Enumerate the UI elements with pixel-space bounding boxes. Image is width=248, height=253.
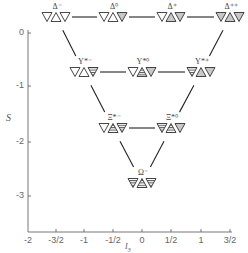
connection-line (179, 85, 193, 112)
x-tick-label: -2 (24, 236, 32, 245)
quark-triangle-left (157, 13, 167, 22)
quark-triangle-middle (108, 13, 118, 22)
particle-label-omega-minus: Ω⁻ (138, 169, 148, 177)
quark-triangle-right (146, 179, 156, 188)
connection-line (209, 30, 223, 56)
quark-triangle-middle (137, 68, 147, 77)
quark-triangle-middle (196, 68, 206, 77)
quark-triangle-right (175, 13, 185, 22)
quark-triangle-middle (108, 124, 118, 133)
x-tick-label: 3/2 (224, 236, 237, 245)
connection-line (150, 141, 164, 167)
quark-triangle-right (234, 13, 244, 22)
particle-xi-star-zero (157, 124, 185, 133)
x-tick-label: 1 (198, 236, 203, 245)
particle-label-xi-star-zero: Ξ*⁰ (166, 114, 178, 122)
quark-triangle-middle (225, 13, 235, 22)
connection-line (120, 141, 134, 167)
quark-triangle-right (117, 124, 127, 133)
particles (42, 13, 244, 188)
y-axis-title: S (6, 112, 11, 123)
particle-omega-minus (128, 179, 156, 188)
quark-triangle-left (216, 13, 226, 22)
quark-triangle-left (70, 68, 80, 77)
particle-label-delta-plusplus: Δ⁺⁺ (224, 3, 237, 11)
quark-triangle-middle (166, 124, 176, 133)
quark-triangle-left (99, 124, 109, 133)
particle-label-sigma-star-minus: Υ*⁻ (78, 58, 92, 66)
particle-label-delta-zero: Δ⁰ (110, 3, 118, 11)
particle-xi-star-minus (99, 124, 127, 133)
quark-triangle-left (187, 68, 197, 77)
particle-label-delta-plus: Δ⁺ (167, 3, 176, 11)
quark-triangle-left (128, 68, 138, 77)
connection-line (91, 85, 105, 112)
particle-label-delta-minus: Δ⁻ (52, 3, 61, 11)
quark-triangle-middle (51, 13, 61, 22)
particle-sigma-star-plus (187, 68, 215, 77)
quark-triangle-right (117, 13, 127, 22)
y-tick-label: 0 (4, 28, 24, 37)
particle-label-sigma-star-plus: Υ*⁺ (195, 58, 209, 66)
quark-triangle-left (42, 13, 52, 22)
x-tick-label: 0 (139, 236, 144, 245)
quark-triangle-right (146, 68, 156, 77)
x-axis-title: I3 (125, 242, 131, 253)
particle-delta-zero (99, 13, 127, 22)
connection-lines (63, 17, 223, 167)
connection-line (63, 30, 76, 56)
particle-label-xi-star-minus: Ξ*⁻ (107, 114, 120, 122)
x-tick-label: 1/2 (165, 236, 178, 245)
quark-triangle-middle (137, 179, 147, 188)
particle-delta-minus (42, 13, 70, 22)
quark-triangle-right (205, 68, 215, 77)
quark-triangle-left (99, 13, 109, 22)
quark-triangle-middle (79, 68, 89, 77)
y-tick-label: -2 (4, 137, 24, 146)
quark-triangle-right (88, 68, 98, 77)
particle-sigma-star-zero (128, 68, 156, 77)
particle-sigma-star-minus (70, 68, 98, 77)
x-tick-label: -3/2 (48, 236, 64, 245)
quark-triangle-right (175, 124, 185, 133)
y-tick-label: -1 (4, 81, 24, 90)
x-tick-label: -1/2 (105, 236, 121, 245)
quark-triangle-middle (166, 13, 176, 22)
quark-triangle-left (128, 179, 138, 188)
x-tick-label: -1 (80, 236, 88, 245)
quark-triangle-left (157, 124, 167, 133)
particle-label-sigma-star-zero: Υ*⁰ (137, 58, 150, 66)
particle-delta-plus (157, 13, 185, 22)
quark-triangle-right (60, 13, 70, 22)
particle-delta-plusplus (216, 13, 244, 22)
y-tick-label: -3 (4, 191, 24, 200)
x-axis-title-sub: 3 (128, 247, 131, 253)
